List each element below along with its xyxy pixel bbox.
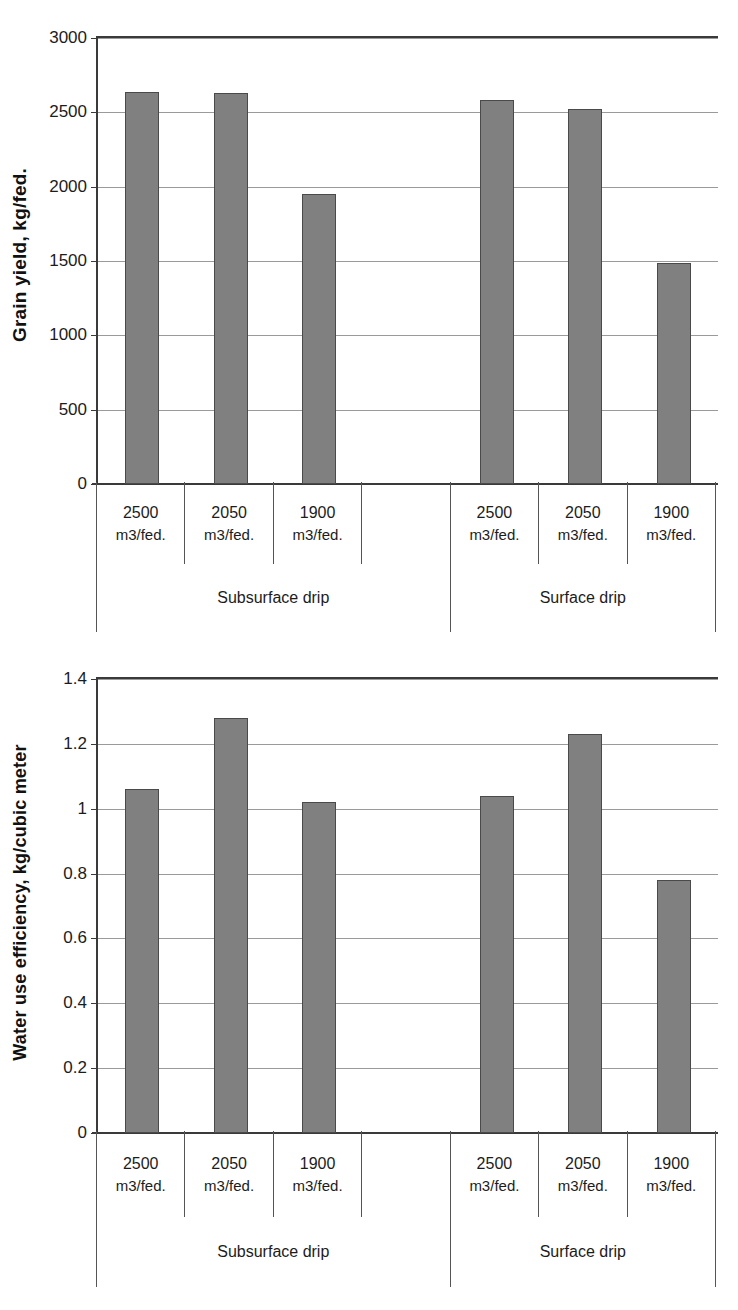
x-axis-empty-cell (362, 1131, 450, 1217)
x-axis-category-row-water-use-efficiency: 2500m3/fed.2050m3/fed.1900m3/fed.2500m3/… (97, 1131, 715, 1217)
bar-slot (541, 38, 630, 484)
x-axis-category-value: 1900 (653, 1152, 689, 1175)
x-axis-category-cell: 1900m3/fed. (274, 482, 362, 564)
y-axis-tick (91, 335, 98, 336)
plot-area-water-use-efficiency: 00.20.40.60.811.21.4 (96, 677, 718, 1133)
y-axis-tick (91, 679, 98, 680)
y-axis-tick-label: 0.6 (63, 928, 87, 948)
y-axis-tick-label: 0.2 (63, 1058, 87, 1078)
bar (657, 880, 691, 1133)
y-axis-tick (91, 809, 98, 810)
x-axis-category-cell: 2500m3/fed. (97, 482, 185, 564)
bar (302, 194, 336, 484)
x-axis-category-unit: m3/fed. (116, 1175, 166, 1197)
x-axis-category-cell: 2050m3/fed. (539, 482, 627, 564)
x-axis-category-cell: 2500m3/fed. (451, 482, 539, 564)
bar-slot (364, 38, 453, 484)
bar-slot (541, 679, 630, 1133)
x-axis-category-unit: m3/fed. (469, 524, 519, 546)
bar (568, 734, 602, 1133)
x-axis-category-cell: 1900m3/fed. (628, 482, 715, 564)
x-axis-category-unit: m3/fed. (558, 1175, 608, 1197)
bar (214, 718, 248, 1133)
y-axis-tick (91, 1068, 98, 1069)
y-axis-tick (91, 261, 98, 262)
y-axis-tick (91, 1003, 98, 1004)
y-axis-tick-label: 1 (78, 799, 87, 819)
y-axis-tick-label: 0 (78, 474, 87, 494)
y-axis-tick-label: 1500 (49, 251, 87, 271)
plot-area-grain-yield: 050010001500200025003000 (96, 36, 718, 484)
x-axis-category-cell: 1900m3/fed. (274, 1131, 362, 1217)
x-axis-category-unit: m3/fed. (646, 524, 696, 546)
x-axis-category-cell: 2050m3/fed. (185, 1131, 273, 1217)
x-axis-category-cell: 1900m3/fed. (628, 1131, 715, 1217)
y-axis-tick-label: 1.2 (63, 734, 87, 754)
chart-panel-grain-yield: Grain yield, kg/fed. 0500100015002000250… (0, 0, 738, 655)
y-axis-tick (91, 744, 98, 745)
x-axis-category-unit: m3/fed. (558, 524, 608, 546)
x-axis-group-label: Surface drip (451, 1217, 715, 1287)
y-axis-tick-label: 0.8 (63, 864, 87, 884)
x-axis-category-cell: 2050m3/fed. (539, 1131, 627, 1217)
x-axis-category-value: 2050 (565, 1152, 601, 1175)
bar-slot (364, 679, 453, 1133)
x-axis-category-value: 2500 (123, 1152, 159, 1175)
x-axis-category-value: 2500 (477, 501, 513, 524)
y-axis-tick (91, 938, 98, 939)
y-axis-tick-label: 1000 (49, 325, 87, 345)
y-axis-tick (91, 112, 98, 113)
y-axis-tick-label: 2000 (49, 177, 87, 197)
x-axis-group-label: Subsurface drip (97, 1217, 451, 1287)
y-axis-tick (91, 38, 98, 39)
bar-series-water-use-efficiency (98, 679, 718, 1133)
y-axis-tick-label: 2500 (49, 102, 87, 122)
x-axis-category-unit: m3/fed. (646, 1175, 696, 1197)
x-axis-category-unit: m3/fed. (116, 524, 166, 546)
x-axis-grain-yield: 2500m3/fed.2050m3/fed.1900m3/fed.2500m3/… (96, 482, 716, 632)
y-axis-tick-label: 500 (59, 400, 87, 420)
x-axis-category-unit: m3/fed. (293, 1175, 343, 1197)
bar-slot (98, 679, 187, 1133)
x-axis-category-unit: m3/fed. (204, 524, 254, 546)
chart-panel-water-use-efficiency: Water use efficiency, kg/cubic meter 00.… (0, 655, 738, 1310)
x-axis-category-unit: m3/fed. (293, 524, 343, 546)
x-axis-category-value: 2050 (211, 1152, 247, 1175)
figure-two-panel-bar-charts: Grain yield, kg/fed. 0500100015002000250… (0, 0, 738, 1310)
y-axis-title-water-use-efficiency: Water use efficiency, kg/cubic meter (0, 665, 40, 1140)
y-axis-tick (91, 410, 98, 411)
x-axis-category-unit: m3/fed. (469, 1175, 519, 1197)
x-axis-category-value: 2500 (477, 1152, 513, 1175)
bar-series-grain-yield (98, 38, 718, 484)
y-axis-tick-label: 0 (78, 1123, 87, 1143)
x-axis-empty-cell (362, 482, 450, 564)
bar (125, 789, 159, 1133)
y-axis-tick-label: 1.4 (63, 669, 87, 689)
x-axis-group-row-water-use-efficiency: Subsurface dripSurface drip (97, 1217, 715, 1287)
x-axis-category-value: 2500 (123, 501, 159, 524)
y-axis-title-text: Water use efficiency, kg/cubic meter (10, 744, 31, 1060)
bar-slot (98, 38, 187, 484)
x-axis-category-cell: 2500m3/fed. (97, 1131, 185, 1217)
bar (125, 92, 159, 484)
bar-slot (187, 679, 276, 1133)
bar-slot (275, 38, 364, 484)
bar-slot (452, 38, 541, 484)
bar (302, 802, 336, 1133)
bar (480, 796, 514, 1133)
y-axis-title-text: Grain yield, kg/fed. (9, 168, 31, 342)
x-axis-category-cell: 2050m3/fed. (185, 482, 273, 564)
bar (480, 100, 514, 484)
y-axis-tick (91, 187, 98, 188)
x-axis-category-value: 2050 (211, 501, 247, 524)
y-axis-title-grain-yield: Grain yield, kg/fed. (0, 20, 40, 490)
x-axis-category-value: 1900 (300, 1152, 336, 1175)
bar-slot (275, 679, 364, 1133)
x-axis-water-use-efficiency: 2500m3/fed.2050m3/fed.1900m3/fed.2500m3/… (96, 1131, 716, 1287)
x-axis-category-value: 1900 (300, 501, 336, 524)
x-axis-category-cell: 2500m3/fed. (451, 1131, 539, 1217)
bar-slot (452, 679, 541, 1133)
bar (214, 93, 248, 484)
bar-slot (629, 679, 718, 1133)
bar-slot (629, 38, 718, 484)
